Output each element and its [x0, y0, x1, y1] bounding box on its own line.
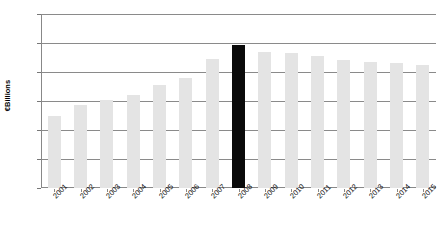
- bar-2004: [127, 95, 140, 188]
- bar-2010: [285, 53, 298, 188]
- y-tick-mark: [37, 130, 41, 131]
- x-axis-ticks: 2001200220032004200520062007200820092010…: [41, 189, 436, 226]
- bar-2015: [416, 65, 429, 188]
- y-tick-mark: [37, 101, 41, 102]
- bar-2006: [179, 78, 192, 188]
- bar-2007: [206, 59, 219, 188]
- y-axis-title: €Billions: [0, 0, 16, 190]
- bar-2014: [390, 63, 403, 188]
- y-axis-title-label: €Billions: [4, 79, 13, 110]
- bar-chart: €Billions 0102030405060 2001200220032004…: [0, 0, 443, 226]
- bar-2011: [311, 56, 324, 188]
- bar-2005: [153, 85, 166, 188]
- gridline: [41, 43, 436, 44]
- bar-2008: [232, 45, 245, 188]
- y-tick-mark: [37, 43, 41, 44]
- bar-2012: [337, 60, 350, 188]
- bar-2002: [74, 105, 87, 188]
- bar-2003: [100, 100, 113, 188]
- y-tick-mark: [37, 14, 41, 15]
- gridline: [41, 14, 436, 15]
- bar-2001: [48, 116, 61, 189]
- bar-2009: [258, 52, 271, 188]
- plot-area: 0102030405060: [41, 14, 436, 188]
- y-tick-mark: [37, 72, 41, 73]
- bar-2013: [364, 62, 377, 188]
- y-tick-mark: [37, 159, 41, 160]
